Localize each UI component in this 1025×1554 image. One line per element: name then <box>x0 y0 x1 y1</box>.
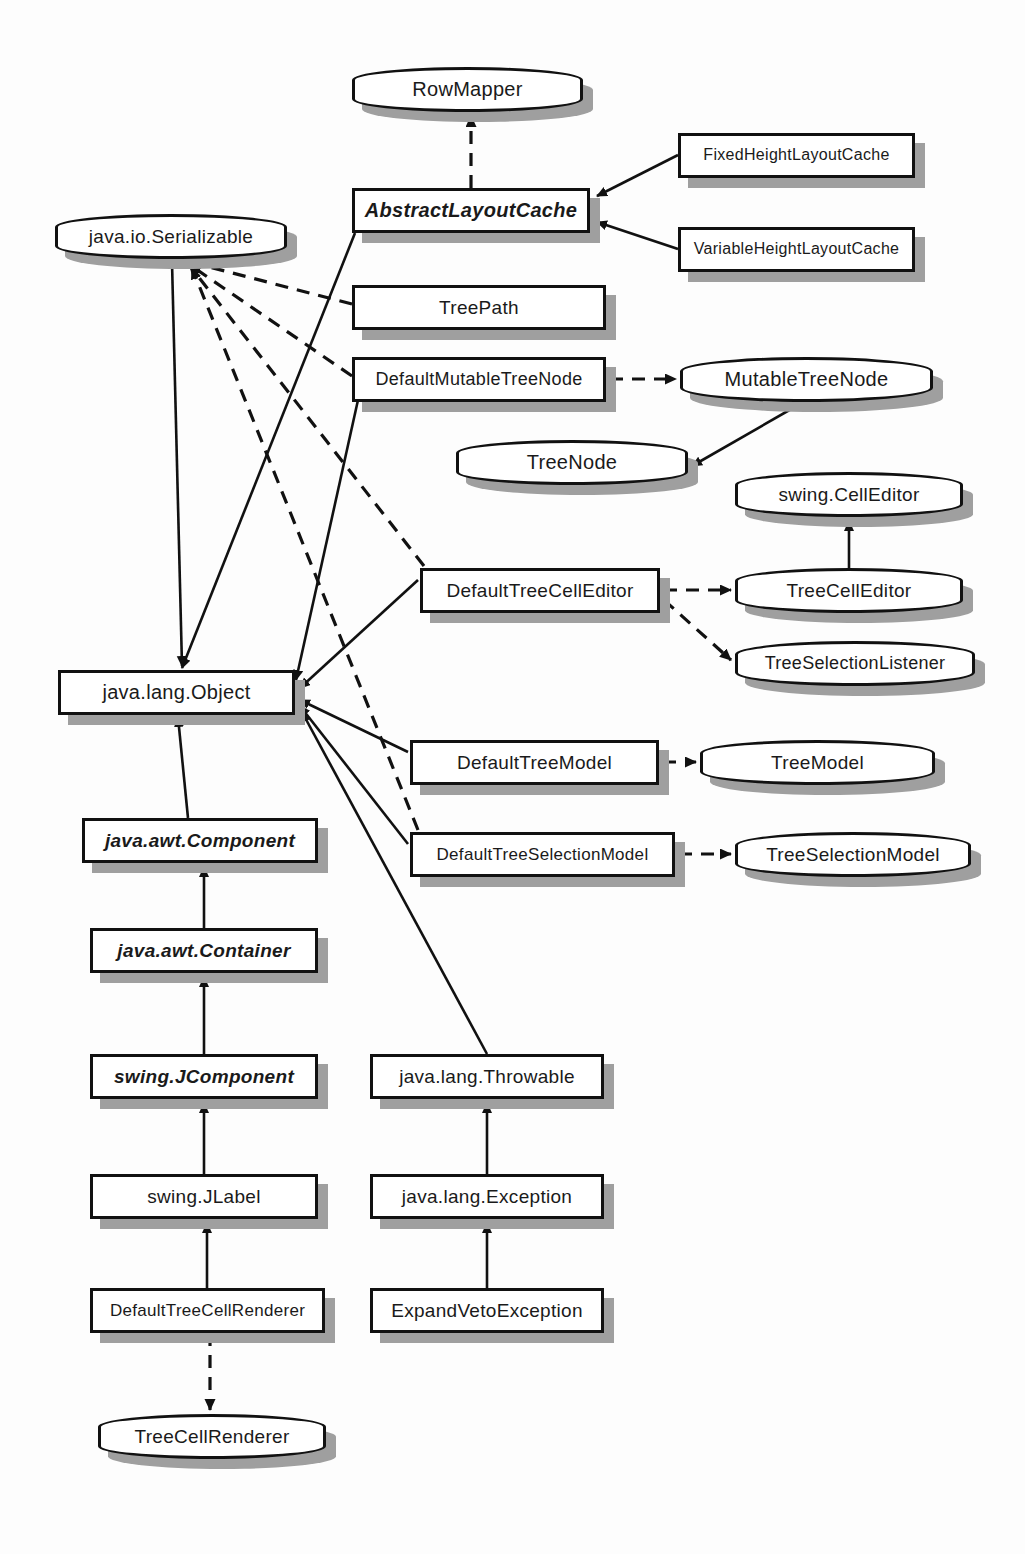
uml-node-component[interactable]: java.awt.Component <box>82 818 318 863</box>
uml-node-container[interactable]: java.awt.Container <box>90 928 318 973</box>
uml-node-defaulttreecelleditor[interactable]: DefaultTreeCellEditor <box>420 568 660 613</box>
edge-Serializable-to-Object <box>172 262 182 666</box>
uml-node-label: java.awt.Container <box>111 941 296 961</box>
uml-class-diagram: RowMapperAbstractLayoutCacheFixedHeightL… <box>0 0 1025 1554</box>
uml-node-throwable[interactable]: java.lang.Throwable <box>370 1054 604 1099</box>
edge-DefaultMutableTreeNode-to-Object <box>296 400 358 680</box>
uml-node-label: TreeCellRenderer <box>128 1427 295 1447</box>
uml-node-label: DefaultTreeCellRenderer <box>104 1302 311 1320</box>
uml-node-fixedheightlayoutcache[interactable]: FixedHeightLayoutCache <box>678 133 915 178</box>
uml-node-label: TreeModel <box>765 753 870 773</box>
uml-node-defaultmutabletreenode[interactable]: DefaultMutableTreeNode <box>352 357 606 402</box>
uml-node-treemodel[interactable]: TreeModel <box>700 740 935 785</box>
uml-node-label: swing.CellEditor <box>772 485 925 505</box>
uml-node-label: DefaultTreeModel <box>451 753 618 773</box>
uml-node-label: DefaultTreeSelectionModel <box>431 846 655 864</box>
uml-node-treenode[interactable]: TreeNode <box>456 440 688 485</box>
uml-node-label: java.awt.Component <box>99 831 301 851</box>
uml-node-label: TreePath <box>433 298 525 318</box>
uml-node-rowmapper[interactable]: RowMapper <box>352 67 583 112</box>
edge-DefaultTreeSelectionModel-to-Serializable <box>192 268 418 830</box>
uml-node-treecelleditor[interactable]: TreeCellEditor <box>735 568 963 613</box>
uml-node-mutabletreenode[interactable]: MutableTreeNode <box>680 357 933 402</box>
uml-node-label: DefaultMutableTreeNode <box>369 370 588 389</box>
uml-node-celleditor[interactable]: swing.CellEditor <box>735 472 963 517</box>
uml-node-label: java.lang.Object <box>96 682 256 703</box>
uml-node-treepath[interactable]: TreePath <box>352 285 606 330</box>
uml-node-label: RowMapper <box>406 79 529 100</box>
uml-node-exception[interactable]: java.lang.Exception <box>370 1174 604 1219</box>
edge-DefaultTreeCellEditor-to-TreeSelectionListener <box>664 600 731 660</box>
uml-node-label: java.lang.Exception <box>396 1187 578 1207</box>
uml-node-label: VariableHeightLayoutCache <box>688 241 906 258</box>
uml-node-jlabel[interactable]: swing.JLabel <box>90 1174 318 1219</box>
uml-node-variableheightlayoutcache[interactable]: VariableHeightLayoutCache <box>678 227 915 272</box>
uml-node-treeselectionlistener[interactable]: TreeSelectionListener <box>735 641 975 686</box>
uml-node-label: TreeCellEditor <box>781 581 918 601</box>
uml-node-label: ExpandVetoException <box>385 1301 589 1321</box>
edge-DefaultTreeModel-to-Object <box>300 700 408 752</box>
edge-FixedHeightLayoutCache-to-AbstractLayoutCache <box>597 155 678 196</box>
uml-node-label: AbstractLayoutCache <box>359 200 583 221</box>
edge-DefaultTreeCellEditor-to-Object <box>300 580 418 688</box>
uml-node-treeselectionmodel[interactable]: TreeSelectionModel <box>735 832 971 877</box>
uml-node-label: TreeNode <box>521 452 624 473</box>
edge-VariableHeightLayoutCache-to-AbstractLayoutCache <box>597 222 678 249</box>
uml-node-label: TreeSelectionListener <box>759 654 952 673</box>
uml-node-abstractlayoutcache[interactable]: AbstractLayoutCache <box>352 188 590 233</box>
uml-node-jcomponent[interactable]: swing.JComponent <box>90 1054 318 1099</box>
uml-node-treecellrenderer[interactable]: TreeCellRenderer <box>98 1414 326 1459</box>
uml-node-defaulttreeselectionmodel[interactable]: DefaultTreeSelectionModel <box>410 832 675 877</box>
uml-node-label: swing.JLabel <box>141 1187 266 1207</box>
uml-node-serializable[interactable]: java.io.Serializable <box>55 214 287 259</box>
uml-node-defaulttreemodel[interactable]: DefaultTreeModel <box>410 740 659 785</box>
uml-node-label: DefaultTreeCellEditor <box>440 581 639 601</box>
uml-node-expandvetoexception[interactable]: ExpandVetoException <box>370 1288 604 1333</box>
uml-node-label: FixedHeightLayoutCache <box>697 147 895 164</box>
uml-node-label: java.lang.Throwable <box>393 1067 581 1087</box>
uml-node-object[interactable]: java.lang.Object <box>58 670 295 715</box>
edge-Component-to-Object <box>178 717 188 818</box>
uml-node-defaulttreecellrenderer[interactable]: DefaultTreeCellRenderer <box>90 1288 325 1333</box>
uml-node-label: java.io.Serializable <box>83 227 259 247</box>
edge-MutableTreeNode-to-TreeNode <box>692 404 800 466</box>
edge-AbstractLayoutCache-to-Object <box>182 233 355 668</box>
uml-node-label: MutableTreeNode <box>719 369 895 390</box>
uml-node-label: swing.JComponent <box>108 1067 300 1087</box>
edge-DefaultMutableTreeNode-to-Serializable <box>190 265 352 376</box>
uml-node-label: TreeSelectionModel <box>760 845 946 865</box>
